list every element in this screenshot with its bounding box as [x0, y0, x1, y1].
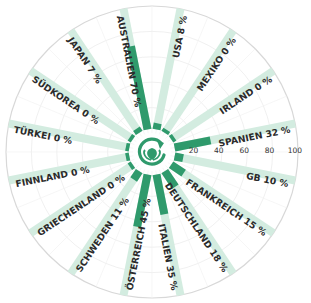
bar [165, 130, 167, 133]
axis-tick-label: 80 [265, 146, 275, 155]
bar [126, 156, 130, 157]
bar [130, 137, 133, 139]
bar [130, 165, 133, 167]
recycle-leaf-icon [134, 134, 170, 170]
bar [126, 147, 130, 148]
axis-tick-label: 100 [288, 146, 303, 155]
bar [137, 129, 140, 133]
axis-tick-label: 20 [189, 146, 199, 155]
axis-tick-label: 60 [239, 146, 249, 155]
bar [156, 123, 157, 129]
bar [134, 171, 140, 179]
axis-tick-label: 40 [214, 146, 224, 155]
radial-bar-chart: USA 8 %MEXIKO 0 %IRLAND 0 %SPANIEN 32 %G… [0, 0, 311, 303]
bar [171, 137, 174, 139]
bar [175, 156, 184, 158]
